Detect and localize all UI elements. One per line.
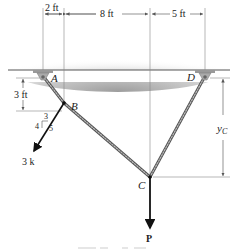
dim-3ft: 3 ft: [14, 89, 28, 100]
label-c: C: [138, 179, 146, 191]
label-b: B: [71, 100, 78, 112]
cable-diagram: 2 ft 8 ft 5 ft 3 ft yC A B C D: [0, 0, 232, 251]
dim-5ft: 5 ft: [172, 8, 186, 19]
guide-lines: [16, 8, 230, 177]
dim-8ft: 8 ft: [100, 8, 114, 19]
label-a: A: [50, 72, 58, 84]
label-d: D: [186, 71, 195, 83]
slope-rise: 4: [35, 122, 39, 131]
slope-run: 3: [44, 112, 48, 121]
force-3k-label: 3 k: [22, 156, 35, 167]
dim-yc: yC: [216, 122, 228, 136]
slope-triangle: [42, 121, 48, 128]
force-p-label: P: [146, 233, 152, 244]
slope-hyp: 5: [49, 124, 53, 133]
dim-2ft: 2 ft: [45, 2, 59, 13]
caption-faint: [78, 247, 146, 249]
